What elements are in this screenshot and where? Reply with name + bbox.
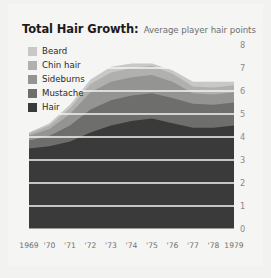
x-axis-label: '73 [105,241,117,250]
y-axis-label: 2 [240,178,256,188]
legend-swatch-icon [28,89,37,98]
x-axis-label: '70 [44,241,56,250]
y-axis-label: 6 [240,86,256,96]
y-axis-label: 8 [240,40,256,50]
x-axis-label: '75 [146,241,158,250]
y-axis-label: 5 [240,109,256,119]
legend-swatch-icon [28,75,37,84]
legend-label: Mustache [42,89,83,98]
x-axis-label: 1969 [19,241,38,250]
legend-swatch-icon [28,47,37,56]
legend-label: Sideburns [42,75,85,84]
chart-title: Total Hair Growth: [22,22,139,36]
y-axis-label: 7 [240,63,256,73]
legend-item: Mustache [28,86,118,100]
legend-label: Hair [42,103,60,112]
chart-subtitle: Average player hair points [144,25,256,35]
chart-title-block: Total Hair Growth: Average player hair p… [22,18,257,34]
y-axis-label: 3 [240,155,256,165]
legend-item: Chin hair [28,58,118,72]
x-axis-label: '76 [167,241,179,250]
x-axis-label: '78 [208,241,220,250]
legend-swatch-icon [28,103,37,112]
y-axis-label: 1 [240,201,256,211]
x-axis-label: '77 [187,241,199,250]
y-axis-label: 0 [240,224,256,234]
x-axis-label: '72 [85,241,97,250]
legend-swatch-icon [28,61,37,70]
chart-figure: Total Hair Growth: Average player hair p… [0,0,271,278]
legend-label: Chin hair [42,61,81,70]
x-axis-label: 1979 [224,241,243,250]
y-axis-label: 4 [240,132,256,142]
legend-label: Beard [42,47,67,56]
x-axis-label: '74 [126,241,138,250]
legend-item: Hair [28,100,118,114]
x-axis-label: '71 [64,241,76,250]
legend-item: Sideburns [28,72,118,86]
legend-item: Beard [28,44,118,58]
chart-legend: BeardChin hairSideburnsMustacheHair [28,44,118,114]
